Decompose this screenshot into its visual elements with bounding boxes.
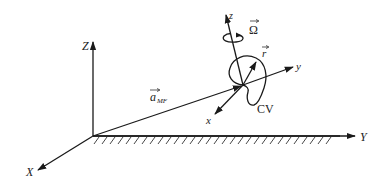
relative-x-label: x <box>205 114 211 126</box>
ground-hatching <box>93 136 340 144</box>
inertial-z-label: Z <box>82 39 89 53</box>
omega-label: Ω <box>249 20 259 38</box>
cv-label: CV <box>257 102 274 116</box>
svg-text:r: r <box>262 47 267 59</box>
inertial-x-label: X <box>25 165 34 179</box>
relative-z-axis <box>226 15 243 85</box>
omega-rotation-icon <box>223 33 243 43</box>
reference-frames-diagram: Z Y X a MF z y x r Ω CV <box>0 0 380 193</box>
inertial-y-label: Y <box>360 130 368 144</box>
r-label: r <box>262 46 269 60</box>
a-mf-label: a MF <box>150 89 168 106</box>
svg-text:Ω: Ω <box>249 23 258 37</box>
relative-y-label: y <box>295 60 301 72</box>
relative-x-axis <box>215 85 243 114</box>
svg-text:MF: MF <box>156 97 168 105</box>
inertial-x-axis <box>38 136 93 170</box>
control-volume-shape <box>229 56 266 105</box>
svg-text:a: a <box>150 90 156 104</box>
relative-z-label: z <box>228 10 233 21</box>
relative-y-axis <box>243 67 293 85</box>
